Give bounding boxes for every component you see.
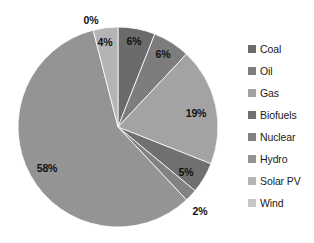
legend-item-gas[interactable]: Gas <box>248 82 314 104</box>
legend-swatch-icon <box>248 67 256 75</box>
legend-item-solar-pv[interactable]: Solar PV <box>248 170 314 192</box>
legend-item-label: Coal <box>260 44 281 55</box>
legend-swatch-icon <box>248 177 256 185</box>
slice-label-solar-pv: 4% <box>98 37 113 48</box>
pie-chart: 6%6%19%5%2%58%4%0% CoalOilGasBiofuelsNuc… <box>0 0 314 243</box>
legend-item-label: Solar PV <box>260 176 301 187</box>
slice-label-coal: 6% <box>127 36 142 47</box>
legend-item-hydro[interactable]: Hydro <box>248 148 314 170</box>
legend-item-label: Nuclear <box>260 132 295 143</box>
slice-label-oil: 6% <box>156 49 171 60</box>
chart-legend: CoalOilGasBiofuelsNuclearHydroSolar PVWi… <box>248 38 314 214</box>
legend-item-label: Biofuels <box>260 110 297 121</box>
legend-swatch-icon <box>248 111 256 119</box>
legend-swatch-icon <box>248 133 256 141</box>
slice-label-biofuels: 5% <box>179 167 194 178</box>
legend-swatch-icon <box>248 45 256 53</box>
legend-item-coal[interactable]: Coal <box>248 38 314 60</box>
legend-item-label: Wind <box>260 198 284 209</box>
pie-plot-area: 6%6%19%5%2%58%4%0% <box>0 0 238 243</box>
legend-item-oil[interactable]: Oil <box>248 60 314 82</box>
legend-item-label: Gas <box>260 88 279 99</box>
slice-label-nuclear: 2% <box>193 206 208 217</box>
legend-item-nuclear[interactable]: Nuclear <box>248 126 314 148</box>
pie-slice-group <box>18 27 218 227</box>
legend-item-label: Oil <box>260 66 273 77</box>
slice-label-gas: 19% <box>186 108 206 119</box>
legend-swatch-icon <box>248 199 256 207</box>
legend-swatch-icon <box>248 155 256 163</box>
legend-item-biofuels[interactable]: Biofuels <box>248 104 314 126</box>
legend-item-label: Hydro <box>260 154 288 165</box>
legend-swatch-icon <box>248 89 256 97</box>
slice-label-wind: 0% <box>84 15 99 26</box>
slice-label-hydro: 58% <box>37 163 57 174</box>
legend-item-wind[interactable]: Wind <box>248 192 314 214</box>
